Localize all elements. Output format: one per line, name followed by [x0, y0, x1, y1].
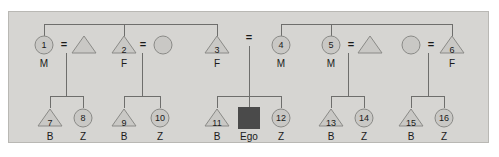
kinship-label: M: [261, 59, 301, 69]
person-number: 15: [399, 119, 423, 128]
person-number: 11: [205, 119, 229, 128]
person-circle-female[interactable]: [402, 36, 420, 54]
person-number: 6: [440, 46, 464, 55]
kinship-label: F: [104, 59, 144, 69]
person-number: 13: [319, 119, 343, 128]
kinship-label: F: [197, 59, 237, 69]
person-number: 4: [269, 41, 293, 50]
kinship-label: M: [311, 59, 351, 69]
marriage-equals-symbol: =: [343, 39, 359, 50]
kinship-label: Z: [424, 132, 464, 142]
person-triangle-male[interactable]: [358, 36, 382, 53]
person-number: 9: [112, 119, 136, 128]
person-number: 1: [32, 41, 56, 50]
kinship-label: Z: [344, 132, 384, 142]
marriage-equals-symbol: =: [135, 39, 151, 50]
kinship-label: B: [104, 132, 144, 142]
person-number: 14: [352, 114, 376, 123]
person-number: 7: [38, 119, 62, 128]
person-number: 5: [319, 41, 343, 50]
kinship-label: Z: [140, 132, 180, 142]
kinship-label: M: [24, 59, 64, 69]
person-number: 10: [148, 114, 172, 123]
kinship-label: F: [432, 59, 472, 69]
person-number: 12: [269, 114, 293, 123]
kinship-label: Z: [63, 132, 103, 142]
person-number: 16: [432, 114, 456, 123]
marriage-equals-symbol: =: [241, 32, 257, 43]
person-triangle-male[interactable]: [72, 36, 96, 53]
person-square-ego[interactable]: [239, 108, 260, 129]
person-circle-female[interactable]: [154, 36, 172, 54]
marriage-equals-symbol: =: [56, 39, 72, 50]
pedigree-diagram: 1M2F3F4M5M6F7B8Z9B10Z11BEgo12Z13B14Z15B1…: [0, 0, 499, 157]
marriage-equals-symbol: =: [423, 39, 439, 50]
person-number: 3: [205, 46, 229, 55]
person-number: 8: [71, 114, 95, 123]
kinship-label: Z: [261, 132, 301, 142]
person-number: 2: [112, 46, 136, 55]
